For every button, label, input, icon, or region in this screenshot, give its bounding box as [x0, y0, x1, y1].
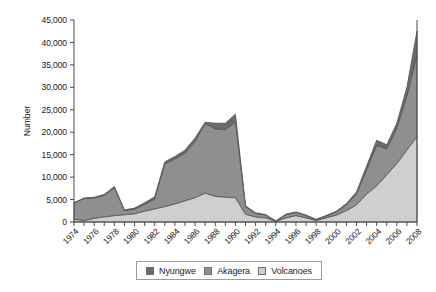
y-tick-label: 15,000	[42, 150, 68, 160]
y-tick-label: 35,000	[42, 60, 68, 70]
legend-item-akagera[interactable]: Akagera	[204, 266, 250, 276]
y-tick-label: 45,000	[42, 15, 68, 25]
y-tick-label: 25,000	[42, 105, 68, 115]
x-tick-label: 1994	[262, 226, 282, 246]
legend-item-nyungwe[interactable]: Nyungwe	[146, 266, 196, 276]
y-tick-label: 0	[62, 217, 67, 227]
x-tick-label: 1974	[61, 226, 81, 246]
legend-swatch-icon	[146, 267, 154, 275]
x-tick-label: 1998	[303, 226, 323, 246]
x-tick-label: 2008	[404, 226, 424, 246]
x-tick-label: 1996	[283, 226, 303, 246]
legend-item-volcanoes[interactable]: Volcanoes	[258, 266, 312, 276]
x-tick-label: 2006	[383, 226, 403, 246]
x-tick-label: 1980	[121, 226, 141, 246]
chart-areas	[74, 31, 417, 222]
legend-item-label: Nyungwe	[159, 266, 196, 276]
y-axis-title: Number	[22, 106, 32, 137]
x-tick-label: 2002	[343, 226, 363, 246]
legend-item-label: Volcanoes	[271, 266, 312, 276]
y-tick-label: 5,000	[46, 195, 67, 205]
legend-swatch-icon	[204, 267, 212, 275]
x-tick-label: 1984	[161, 226, 181, 246]
x-tick-label: 1992	[242, 226, 262, 246]
x-tick-label: 1990	[222, 226, 242, 246]
legend-swatch-icon	[258, 267, 266, 275]
x-tick-label: 2000	[323, 226, 343, 246]
y-tick-label: 10,000	[42, 172, 68, 182]
y-tick-label: 30,000	[42, 82, 68, 92]
chart-container: 05,00010,00015,00020,00025,00030,00035,0…	[0, 0, 436, 292]
x-tick-label: 2004	[363, 226, 383, 246]
y-tick-label: 20,000	[42, 127, 68, 137]
legend-item-label: Akagera	[217, 266, 250, 276]
x-tick-label: 1982	[141, 226, 161, 246]
stacked-area-chart: 05,00010,00015,00020,00025,00030,00035,0…	[0, 0, 436, 292]
chart-legend: NyungweAkageraVolcanoes	[136, 261, 322, 280]
x-tick-label: 1978	[101, 226, 121, 246]
x-tick-label: 1976	[81, 226, 101, 246]
y-tick-label: 40,000	[42, 38, 68, 48]
x-tick-label: 1988	[202, 226, 222, 246]
x-tick-label: 1986	[182, 226, 202, 246]
